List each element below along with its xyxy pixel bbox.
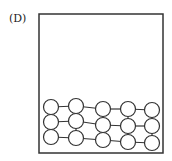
particle-circle [121, 119, 136, 134]
particle-circle [121, 102, 136, 117]
particle-circle [145, 136, 160, 151]
particle-circle [96, 118, 111, 133]
particle-circle [69, 114, 84, 129]
particle-circle [145, 119, 160, 134]
particle-circle [145, 103, 160, 118]
particle-circle [69, 131, 84, 146]
particle-circle [96, 133, 111, 148]
particle-circle [96, 102, 111, 117]
particle-circle [121, 135, 136, 150]
particle-circle [69, 99, 84, 114]
particle-circle [44, 115, 59, 130]
particle-container-diagram [0, 0, 172, 161]
particle-circle [44, 100, 59, 115]
particle-circle [44, 130, 59, 145]
